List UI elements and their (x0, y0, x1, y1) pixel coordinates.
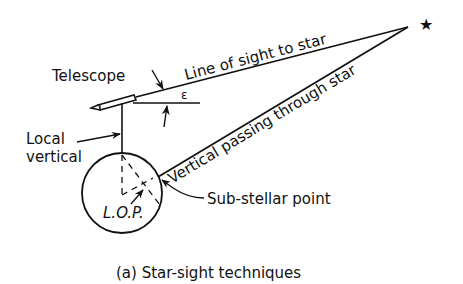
star-sight-diagram: ★ Line of sight to star Vertical passing… (0, 0, 463, 284)
telescope-label: Telescope (51, 67, 125, 85)
epsilon-arrow-top (152, 70, 163, 89)
figure-caption: (a) Star-sight techniques (116, 264, 301, 282)
lop-label: L.O.P. (103, 204, 144, 222)
telescope-icon (91, 95, 136, 110)
lop-arrow (131, 190, 143, 204)
local-vertical-label-line2: vertical (26, 148, 82, 166)
dashed-construction-lines (122, 155, 160, 205)
sub-stellar-label: Sub-stellar point (207, 190, 331, 208)
local-vertical-arrow (77, 134, 120, 142)
local-vertical-label-line1: Local (26, 130, 65, 148)
epsilon-label: ε (181, 88, 188, 102)
star-icon: ★ (419, 15, 433, 34)
line-of-sight (136, 27, 408, 97)
epsilon-arrow-bottom (164, 106, 167, 127)
sub-stellar-leader (162, 180, 204, 198)
line-of-sight-label: Line of sight to star (182, 30, 328, 84)
